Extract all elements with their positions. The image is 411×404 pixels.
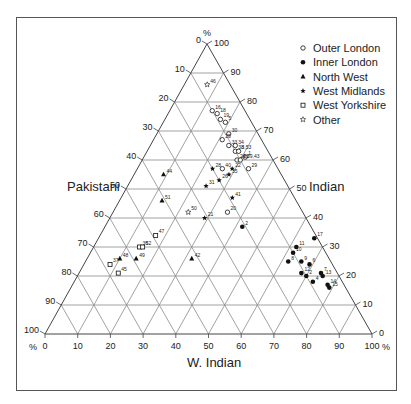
data-point: 37 bbox=[108, 257, 119, 266]
legend: Outer LondonInner LondonNorth WestWest M… bbox=[300, 42, 386, 126]
grid-line-windian bbox=[339, 305, 355, 334]
left-tick-label: 100 bbox=[24, 325, 39, 335]
filled-circle-marker-icon bbox=[299, 271, 304, 276]
point-label: 8 bbox=[291, 255, 294, 261]
bottom-tick-label: 80 bbox=[302, 341, 312, 351]
legend-item: Inner London bbox=[301, 56, 378, 68]
open-square-legend-icon bbox=[301, 103, 305, 107]
filled-circle-marker-icon bbox=[327, 285, 332, 290]
open-square-marker-icon bbox=[108, 262, 112, 266]
filled-circle-marker-icon bbox=[304, 274, 309, 279]
left-tick-label: 0 bbox=[196, 35, 201, 45]
legend-label: Other bbox=[313, 114, 341, 126]
point-label: 52 bbox=[146, 240, 152, 246]
bottom-tick-label: 20 bbox=[105, 341, 115, 351]
bottom-axis-title: W. Indian bbox=[187, 355, 241, 370]
point-label: 4 bbox=[316, 275, 319, 281]
point-label: 17 bbox=[317, 231, 323, 237]
point-label: 31 bbox=[209, 179, 215, 185]
bottom-tick-label: 70 bbox=[269, 341, 279, 351]
point-label: 2 bbox=[245, 220, 248, 226]
data-point: 48 bbox=[117, 252, 128, 261]
legend-item: West Yorkshire bbox=[301, 99, 386, 111]
legend-item: Outer London bbox=[301, 42, 380, 54]
right-tick-label: 10 bbox=[363, 299, 373, 309]
open-circle-marker-icon bbox=[218, 117, 222, 121]
legend-item: North West bbox=[301, 71, 368, 83]
filled-circle-marker-icon bbox=[240, 224, 245, 229]
filled-star-marker-icon bbox=[210, 166, 215, 171]
open-circle-marker-icon bbox=[215, 111, 219, 115]
right-tick-label: 50 bbox=[297, 183, 307, 193]
point-label: 42 bbox=[195, 252, 201, 258]
left-tick-label: 40 bbox=[126, 151, 136, 161]
open-star-marker-icon bbox=[205, 82, 210, 87]
filled-circle-marker-icon bbox=[311, 280, 316, 285]
open-circle-legend-icon bbox=[301, 46, 305, 50]
filled-star-marker-icon bbox=[216, 178, 221, 183]
point-label: 45 bbox=[121, 266, 127, 272]
bottom-tick-label: 100 bbox=[364, 341, 379, 351]
filled-circle-legend-icon bbox=[301, 60, 306, 65]
filled-circle-marker-icon bbox=[286, 259, 291, 264]
bottom-tick-label: 40 bbox=[171, 341, 181, 351]
point-label: 6 bbox=[313, 257, 316, 263]
data-point: 46 bbox=[205, 78, 216, 87]
data-point: 31 bbox=[203, 179, 214, 188]
data-point: 40 bbox=[220, 162, 231, 171]
data-point: 29 bbox=[246, 162, 257, 171]
right-tick-label: 40 bbox=[313, 212, 323, 222]
filled-triangle-legend-icon bbox=[301, 74, 306, 79]
legend-item: West Midlands bbox=[300, 85, 385, 97]
open-circle-marker-icon bbox=[220, 138, 224, 142]
top-percent-label: % bbox=[203, 28, 211, 38]
data-point: 20 bbox=[225, 205, 236, 214]
right-tick-label: 70 bbox=[264, 125, 274, 135]
point-label: 50 bbox=[191, 205, 197, 211]
point-label: 48 bbox=[123, 252, 129, 258]
point-label: 47 bbox=[159, 228, 165, 234]
data-point: 47 bbox=[154, 228, 165, 237]
open-circle-marker-icon bbox=[246, 167, 250, 171]
open-star-legend-icon bbox=[300, 117, 305, 122]
open-square-marker-icon bbox=[154, 233, 158, 237]
point-label: 25 bbox=[225, 133, 231, 139]
data-point: 41 bbox=[230, 191, 241, 200]
filled-circle-marker-icon bbox=[299, 259, 304, 264]
data-point: 49 bbox=[134, 252, 145, 261]
ternary-chart: 0102030405060708090100010203040506070809… bbox=[0, 0, 411, 404]
bottom-tick-label: 30 bbox=[138, 341, 148, 351]
open-circle-marker-icon bbox=[233, 143, 237, 147]
bottom-tick-label: 60 bbox=[236, 341, 246, 351]
filled-triangle-marker-icon bbox=[189, 256, 194, 261]
point-label: 30 bbox=[232, 127, 238, 133]
point-label: 40 bbox=[225, 162, 231, 168]
right-tick-label: 90 bbox=[231, 67, 241, 77]
point-label: 51 bbox=[165, 194, 171, 200]
right-tick-label: 20 bbox=[346, 270, 356, 280]
point-label: 21 bbox=[208, 211, 214, 217]
grid-line-pakistani bbox=[61, 305, 77, 334]
filled-star-marker-icon bbox=[230, 195, 235, 200]
right-tick-label: 60 bbox=[280, 154, 290, 164]
bottom-right-percent-label: % bbox=[382, 342, 390, 352]
open-square-marker-icon bbox=[141, 245, 145, 249]
left-tick-label: 70 bbox=[78, 238, 88, 248]
data-point: 45 bbox=[116, 266, 127, 275]
point-label: 46 bbox=[210, 78, 216, 84]
right-tick-label: 0 bbox=[379, 328, 384, 338]
right-tick-label: 30 bbox=[330, 241, 340, 251]
point-label: 10 bbox=[296, 246, 302, 252]
legend-label: West Midlands bbox=[313, 85, 385, 97]
open-circle-marker-icon bbox=[225, 210, 229, 214]
right-tick-label: 80 bbox=[247, 96, 257, 106]
grid-line-windian bbox=[78, 73, 224, 334]
legend-label: Inner London bbox=[313, 56, 378, 68]
grid-lines bbox=[61, 73, 355, 334]
left-tick-label: 30 bbox=[142, 122, 152, 132]
open-circle-marker-icon bbox=[227, 143, 231, 147]
legend-label: West Yorkshire bbox=[313, 99, 386, 111]
bottom-tick-label: 0 bbox=[42, 341, 47, 351]
filled-star-legend-icon bbox=[300, 88, 305, 93]
left-tick-label: 60 bbox=[94, 209, 104, 219]
